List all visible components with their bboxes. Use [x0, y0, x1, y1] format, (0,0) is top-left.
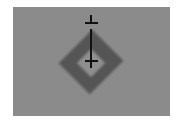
top-cap-bar	[85, 22, 98, 24]
vertical-marker-line	[90, 29, 92, 60]
bottom-cap-stem	[90, 61, 92, 68]
